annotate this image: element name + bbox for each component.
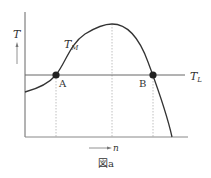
- x-arrow-head-icon: [107, 147, 112, 150]
- tl-label: TL: [190, 70, 202, 84]
- point-a-label: A: [58, 78, 67, 89]
- point-b-marker: [149, 71, 156, 78]
- y-arrow-head-icon: [16, 42, 19, 47]
- x-axis-label: n: [113, 143, 119, 153]
- diagram-canvas: T n TM TL A B 図a: [0, 0, 211, 178]
- point-b-label: B: [139, 78, 146, 89]
- tm-curve: [25, 24, 172, 137]
- y-axis-label: T: [13, 28, 22, 41]
- figure-caption: 図a: [98, 158, 114, 169]
